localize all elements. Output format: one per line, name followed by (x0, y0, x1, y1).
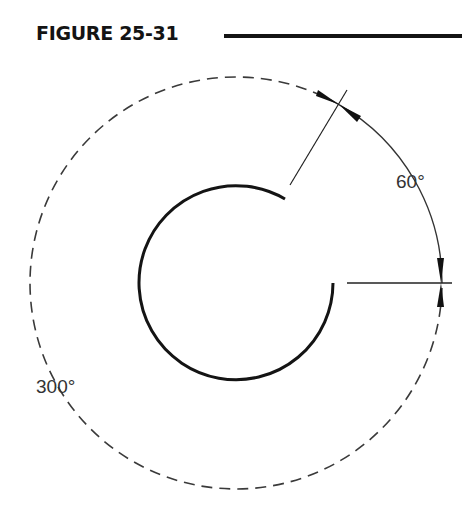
arrowhead-right-bottom (437, 283, 444, 307)
label-60-degrees: 60° (396, 171, 425, 192)
label-300-degrees: 300° (36, 376, 75, 397)
dimension-arc-60 (339, 105, 442, 283)
arrowhead-right-top (437, 258, 444, 283)
arrowhead-upper-left (316, 90, 339, 105)
arrowhead-upper-right (339, 105, 361, 122)
angle-diagram: 60° 300° (0, 0, 476, 520)
inner-arc (139, 186, 333, 380)
